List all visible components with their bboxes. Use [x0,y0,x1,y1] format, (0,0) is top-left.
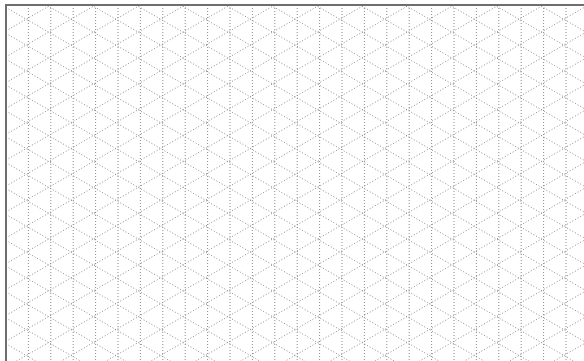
grid-diagonal-line-down [6,0,584,264]
grid-diagonal-line-up [6,0,584,238]
grid-diagonal-line-up [6,137,584,361]
grid-diagonal-line-down [6,0,584,315]
grid-diagonal-line-down [6,163,584,361]
grid-lines [6,0,584,361]
grid-diagonal-line-down [6,344,584,361]
frame-top-border [5,4,584,6]
grid-diagonal-line-up [6,266,584,361]
grid-diagonal-line-down [6,0,584,186]
grid-diagonal-line-up [6,0,584,264]
isometric-grid [0,0,584,361]
grid-diagonal-line-down [6,137,584,361]
grid-diagonal-line-up [6,0,584,134]
grid-diagonal-line-down [6,266,584,361]
grid-diagonal-line-up [6,85,584,361]
grid-diagonal-line-down [6,189,584,361]
grid-diagonal-line-down [6,0,584,238]
grid-diagonal-line-down [6,214,584,361]
grid-diagonal-line-up [6,0,584,186]
grid-diagonal-line-up [6,344,584,361]
grid-diagonal-line-up [6,163,584,361]
grid-diagonal-line-up [6,214,584,361]
grid-diagonal-line-down [6,318,584,361]
grid-diagonal-line-up [6,33,584,361]
grid-diagonal-line-up [6,0,584,57]
grid-diagonal-line-down [6,0,584,134]
grid-diagonal-line-up [6,292,584,361]
grid-diagonal-line-up [6,0,584,108]
grid-diagonal-line-up [6,0,584,290]
grid-diagonal-line-up [6,318,584,361]
grid-diagonal-line-up [6,0,584,83]
grid-paper [0,0,584,361]
grid-diagonal-line-down [6,85,584,361]
frame-left-border [5,4,7,361]
grid-diagonal-line-down [6,0,584,290]
grid-diagonal-line-down [6,0,584,83]
grid-diagonal-line-down [6,0,584,108]
grid-diagonal-line-up [6,189,584,361]
grid-diagonal-line-down [6,33,584,361]
grid-diagonal-line-down [6,0,584,57]
grid-diagonal-line-down [6,292,584,361]
grid-diagonal-line-up [6,0,584,315]
